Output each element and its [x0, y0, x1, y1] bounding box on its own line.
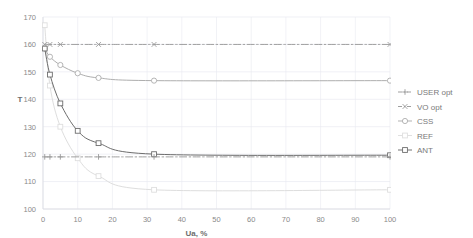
legend-item-vo-opt[interactable]: VO opt: [398, 103, 443, 112]
y-tick-label: 120: [23, 150, 36, 159]
y-tick-label: 140: [23, 95, 36, 104]
y-tick-label: 100: [23, 205, 36, 214]
data-point-marker: [403, 148, 408, 153]
x-axis-title: Ua, %: [186, 229, 208, 238]
chart-figure: 1001101201301401501601700102030405060708…: [0, 0, 473, 238]
x-tick-label: 90: [351, 215, 359, 224]
x-tick-label: 10: [74, 215, 82, 224]
legend-item-css[interactable]: CSS: [398, 117, 433, 126]
data-point-marker: [387, 78, 392, 83]
y-tick-label: 160: [23, 40, 36, 49]
data-point-marker: [152, 187, 157, 192]
data-point-marker: [403, 104, 408, 109]
y-tick-label: 150: [23, 68, 36, 77]
x-tick-label: 30: [143, 215, 151, 224]
x-tick-label: 50: [212, 215, 220, 224]
x-tick-label: 0: [41, 215, 45, 224]
chart-canvas: 1001101201301401501601700102030405060708…: [0, 0, 473, 238]
data-point-marker: [96, 75, 101, 80]
data-point-marker: [151, 78, 156, 83]
data-point-marker: [58, 62, 63, 67]
data-point-marker: [403, 133, 408, 138]
data-point-marker: [96, 174, 101, 179]
data-point-marker: [47, 54, 52, 59]
data-point-marker: [42, 46, 47, 51]
x-tick-label: 70: [282, 215, 290, 224]
data-point-marker: [388, 187, 393, 192]
data-point-marker: [58, 124, 63, 129]
legend-label: REF: [417, 132, 433, 141]
data-point-marker: [96, 141, 101, 146]
legend-label: VO opt: [417, 103, 443, 112]
data-point-marker: [48, 72, 53, 77]
x-tick-label: 80: [316, 215, 324, 224]
data-point-marker: [402, 89, 408, 95]
x-tick-label: 20: [108, 215, 116, 224]
legend-item-ant[interactable]: ANT: [398, 146, 433, 155]
y-tick-label: 170: [23, 13, 36, 22]
x-tick-label: 60: [247, 215, 255, 224]
x-tick-label: 40: [178, 215, 186, 224]
y-tick-label: 130: [23, 123, 36, 132]
legend-item-user-opt[interactable]: USER opt: [398, 88, 453, 97]
data-point-marker: [58, 101, 63, 106]
legend-label: CSS: [417, 117, 433, 126]
legend-label: USER opt: [417, 88, 453, 97]
data-point-marker: [75, 71, 80, 76]
data-point-marker: [75, 128, 80, 133]
data-point-marker: [48, 83, 53, 88]
y-axis-title: T: [18, 95, 23, 104]
x-tick-label: 100: [384, 215, 397, 224]
data-point-marker: [402, 118, 407, 123]
legend-item-ref[interactable]: REF: [398, 132, 433, 141]
y-tick-label: 110: [24, 177, 36, 186]
legend-label: ANT: [417, 146, 433, 155]
data-point-marker: [42, 23, 47, 28]
